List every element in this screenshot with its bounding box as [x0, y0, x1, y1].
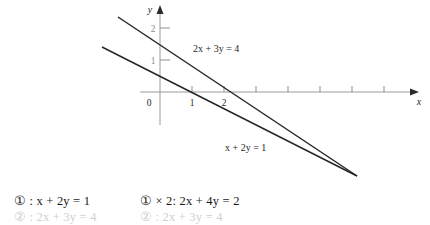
- circled-one-marker: ①: [14, 194, 26, 208]
- legend-row-clipped: ② : 2x + 3y = 4 ② : 2x + 3y = 4: [14, 209, 430, 225]
- legend-cell-3: ② : 2x + 3y = 4: [14, 209, 140, 225]
- legend-cell-3-text: : 2x + 3y = 4: [26, 210, 96, 224]
- legend-cell-2: ① × 2: 2x + 4y = 2: [140, 193, 240, 209]
- x-tick-label-1: 1: [190, 98, 195, 108]
- circled-two-marker: ②: [14, 210, 26, 224]
- legend-cell-1: ① : x + 2y = 1: [14, 193, 140, 209]
- x-axis-label: x: [416, 96, 422, 107]
- circled-two-marker-2: ②: [140, 210, 152, 224]
- y-tick-label-2: 2: [151, 24, 156, 34]
- y-axis-label: y: [147, 4, 153, 15]
- legend-cell-4-text: : 2x + 3y = 4: [152, 210, 222, 224]
- plot-line-x-2y-1: [102, 47, 357, 176]
- x-axis-ticks: [192, 86, 384, 92]
- x-axis-arrow-icon: [410, 89, 419, 96]
- legend-cell-1-text: : x + 2y = 1: [26, 194, 90, 208]
- legend-cell-2-text: × 2: 2x + 4y = 2: [152, 194, 239, 208]
- coordinate-plot: 0 1 2 2 1 y x 2x + 3y = 4 x + 2y = 1: [0, 0, 430, 190]
- equation-label-line-1: 2x + 3y = 4: [193, 43, 239, 54]
- circled-one-marker-2: ①: [140, 194, 152, 208]
- legend-row: ① : x + 2y = 1 ① × 2: 2x + 4y = 2: [14, 193, 430, 209]
- equation-label-line-2: x + 2y = 1: [225, 142, 266, 153]
- legend-cell-4: ② : 2x + 3y = 4: [140, 209, 223, 225]
- y-tick-label-1: 1: [151, 56, 156, 66]
- y-axis-ticks: [160, 28, 170, 60]
- x-tick-label-2: 2: [222, 98, 227, 108]
- equation-legend: ① : x + 2y = 1 ① × 2: 2x + 4y = 2 ② : 2x…: [0, 193, 430, 225]
- origin-label: 0: [147, 98, 152, 108]
- y-axis-arrow-icon: [157, 5, 164, 14]
